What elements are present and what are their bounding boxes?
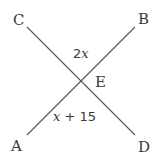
intersecting-lines-diagram: C B A D E 2x x + 15 — [0, 0, 161, 161]
point-label-a: A — [10, 137, 22, 155]
point-label-e: E — [95, 73, 106, 91]
angle-top-coef: 2 — [73, 46, 81, 61]
point-label-d: D — [138, 138, 150, 156]
angle-label-top: 2x — [73, 46, 89, 61]
point-label-c: C — [13, 11, 24, 29]
angle-top-var: x — [81, 46, 89, 61]
angle-label-bottom: x + 15 — [53, 109, 96, 124]
point-label-b: B — [138, 10, 149, 28]
angle-bottom-const: 15 — [80, 109, 97, 124]
angle-bottom-op: + — [60, 109, 79, 124]
